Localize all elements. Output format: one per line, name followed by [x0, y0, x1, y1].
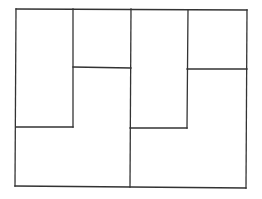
- diagram-lines: [15, 9, 247, 188]
- left-half-square-bottom-line: [73, 67, 131, 68]
- center-divider-line: [130, 9, 131, 187]
- partition-diagram: [0, 0, 262, 199]
- outer-left-line: [15, 9, 16, 186]
- outer-right-line: [246, 10, 247, 188]
